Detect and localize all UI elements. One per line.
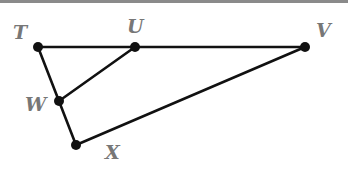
segments-group xyxy=(38,47,305,145)
label-x: X xyxy=(104,141,121,163)
label-t: T xyxy=(13,21,29,43)
segment-uw xyxy=(59,47,135,101)
point-t xyxy=(33,42,43,52)
segment-xv xyxy=(76,47,305,145)
diagram-canvas: TUVWX xyxy=(0,0,348,170)
point-x xyxy=(71,140,81,150)
label-v: V xyxy=(316,19,333,41)
label-u: U xyxy=(127,15,145,37)
points-group xyxy=(33,42,310,150)
point-w xyxy=(54,96,64,106)
geometry-figure: TUVWX xyxy=(0,0,348,170)
point-u xyxy=(130,42,140,52)
labels-group: TUVWX xyxy=(13,15,333,163)
label-w: W xyxy=(25,93,48,115)
point-v xyxy=(300,42,310,52)
